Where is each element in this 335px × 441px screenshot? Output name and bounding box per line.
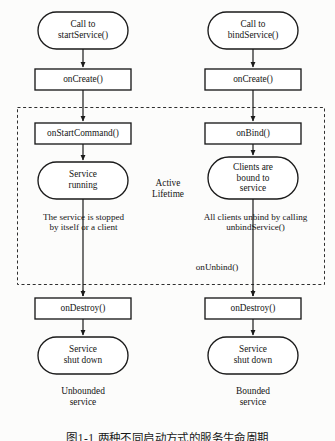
node-call-bind-service xyxy=(208,12,298,49)
node-on-start-command xyxy=(35,123,131,144)
edge-label-clients-unbind: All clients unbind by calling unbindServ… xyxy=(183,212,328,233)
node-on-create-right xyxy=(205,69,301,90)
service-lifecycle-diagram: Call to startService() onCreate() onStar… xyxy=(0,0,335,441)
caption-bounded-service: Bounded service xyxy=(203,386,303,408)
node-service-shut-down-left xyxy=(38,337,128,374)
edge-label-on-unbind: onUnbind() xyxy=(186,262,248,272)
node-on-create-left xyxy=(35,69,131,90)
node-clients-bound xyxy=(208,157,298,199)
node-on-bind xyxy=(205,123,301,144)
node-service-shut-down-right xyxy=(208,337,298,374)
figure-caption: 图1-1 两种不同启动方式的服务生命周期 xyxy=(0,431,335,441)
node-service-running xyxy=(38,162,128,199)
caption-unbounded-service: Unbounded service xyxy=(33,386,133,408)
node-on-destroy-left xyxy=(35,298,131,319)
edge-label-service-stopped: The service is stopped by itself or a cl… xyxy=(16,212,151,233)
node-call-start-service xyxy=(38,12,128,49)
node-on-destroy-right xyxy=(205,298,301,319)
active-lifetime-label: Active Lifetime xyxy=(138,178,198,200)
